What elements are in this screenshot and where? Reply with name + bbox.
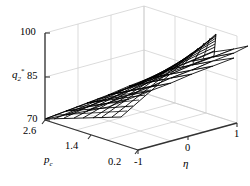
z-axis-label: q2* — [12, 68, 25, 83]
z-axis-ticks — [45, 33, 50, 120]
z-tick-100: 100 — [20, 27, 36, 38]
y-tick-minus1: -1 — [134, 157, 143, 168]
y-tick-1: 1 — [234, 129, 239, 140]
surface-mesh-lines — [45, 34, 216, 119]
plot-canvas — [0, 0, 250, 186]
x-axis-ticks — [42, 120, 138, 154]
y-tick-0: 0 — [185, 143, 190, 154]
x-axis-label-sub: c — [50, 160, 53, 168]
z-tick-70: 70 — [27, 114, 38, 125]
y-axis-label: η — [183, 158, 188, 169]
x-tick-1-4: 1.4 — [65, 141, 78, 152]
z-axis-label-sub: 2 — [18, 75, 22, 83]
x-tick-0-2: 0.2 — [108, 157, 121, 168]
x-axis-label: pc — [44, 154, 53, 168]
background-grid — [45, 6, 237, 150]
figure-3d-surface-plot: q2* 100 85 70 2.6 1.4 0.2 pc -1 0 1 η — [0, 0, 250, 186]
z-axis-label-sup: * — [21, 67, 25, 75]
x-tick-2-6: 2.6 — [23, 126, 36, 137]
z-tick-85: 85 — [27, 71, 38, 82]
